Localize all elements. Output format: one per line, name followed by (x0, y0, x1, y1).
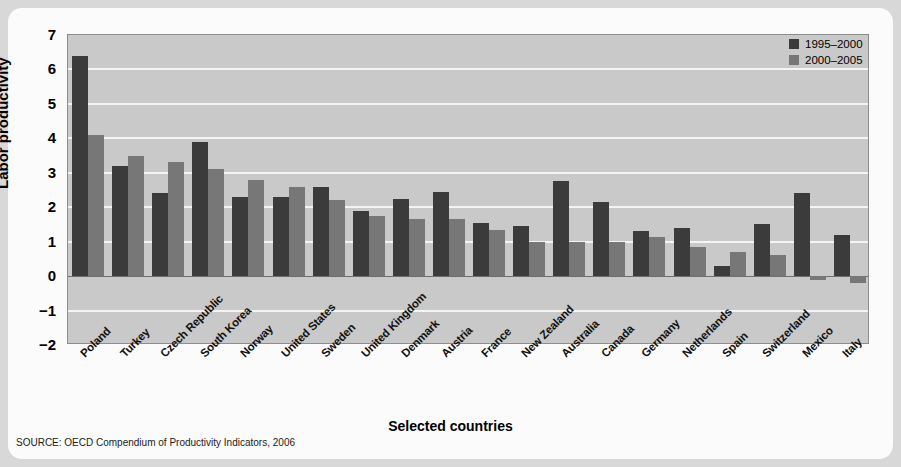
bar (329, 200, 345, 276)
bar (192, 142, 208, 276)
legend-label: 2000–2005 (805, 54, 863, 66)
y-axis-tick-3: 3 (28, 164, 56, 179)
x-axis-title: Selected countries (0, 418, 901, 434)
y-axis-tick-6: 6 (28, 61, 56, 76)
bar (810, 276, 826, 279)
bar (850, 276, 866, 283)
bar (208, 169, 224, 276)
bar (433, 192, 449, 276)
bar (72, 56, 88, 276)
bar (369, 216, 385, 276)
bar (248, 180, 264, 276)
bar (168, 162, 184, 276)
bar (794, 193, 810, 276)
bar (593, 202, 609, 276)
y-axis-tick-0: 0 (28, 268, 56, 283)
bar (152, 193, 168, 276)
bar (569, 242, 585, 276)
bar (513, 226, 529, 276)
bar (313, 187, 329, 277)
bar (730, 252, 746, 276)
bar (609, 242, 625, 276)
bar (273, 197, 289, 276)
bar (714, 266, 730, 276)
bar (393, 199, 409, 277)
y-axis-tick--1: −1 (28, 302, 56, 317)
y-axis-tick-7: 7 (28, 27, 56, 42)
bar (289, 187, 305, 277)
plot-area (67, 34, 869, 344)
bar (449, 219, 465, 276)
bar (489, 230, 505, 277)
y-axis-title: Labor productivity (0, 57, 11, 189)
bar (353, 211, 369, 276)
bar (674, 228, 690, 276)
chart-figure: Labor productivity 76543210−1−2 PolandTu… (0, 0, 901, 467)
bar (770, 255, 786, 276)
legend-label: 1995–2000 (805, 38, 863, 50)
bar (553, 181, 569, 276)
bar (529, 242, 545, 276)
legend-item: 2000–2005 (789, 54, 863, 66)
y-axis-tick-5: 5 (28, 95, 56, 110)
bar (232, 197, 248, 276)
bar (409, 219, 425, 276)
bar (128, 156, 144, 277)
bar (112, 166, 128, 276)
bar (473, 223, 489, 276)
bar (633, 231, 649, 276)
y-axis-tick-2: 2 (28, 199, 56, 214)
bar (88, 135, 104, 276)
bar-series-group (68, 35, 868, 343)
y-axis-tick-1: 1 (28, 233, 56, 248)
bar (649, 237, 665, 277)
legend-swatch-icon (789, 39, 799, 49)
chart-legend: 1995–20002000–2005 (789, 38, 863, 70)
bar (690, 247, 706, 276)
y-axis-tick--2: −2 (28, 337, 56, 352)
source-note: SOURCE: OECD Compendium of Productivity … (16, 437, 295, 448)
bar (834, 235, 850, 276)
legend-swatch-icon (789, 55, 799, 65)
legend-item: 1995–2000 (789, 38, 863, 50)
bar (754, 224, 770, 276)
y-axis-tick-4: 4 (28, 130, 56, 145)
